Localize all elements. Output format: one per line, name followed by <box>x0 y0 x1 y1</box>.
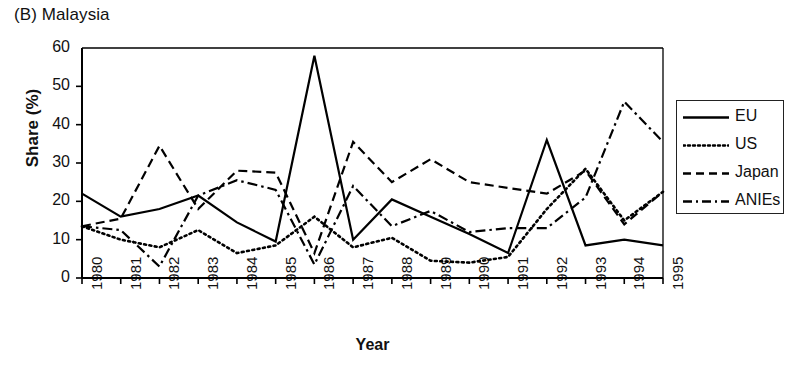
chart-legend: EU US Japan ANIEs <box>676 100 784 214</box>
legend-item-us: US <box>683 133 781 157</box>
legend-swatch-anies <box>683 200 729 203</box>
series-line-japan <box>82 142 663 253</box>
legend-label-us: US <box>735 135 757 153</box>
legend-swatch-eu <box>683 116 729 119</box>
legend-label-anies: ANIEs <box>735 191 780 209</box>
legend-label-eu: EU <box>735 107 757 125</box>
chart-container: (B) Malaysia Share (%) Year 010203040506… <box>0 0 795 366</box>
legend-item-eu: EU <box>683 105 781 129</box>
legend-item-anies: ANIEs <box>683 189 781 213</box>
series-line-eu <box>82 56 663 253</box>
legend-swatch-japan <box>683 172 729 175</box>
legend-label-japan: Japan <box>735 163 779 181</box>
legend-swatch-us <box>683 144 729 147</box>
legend-item-japan: Japan <box>683 161 781 185</box>
